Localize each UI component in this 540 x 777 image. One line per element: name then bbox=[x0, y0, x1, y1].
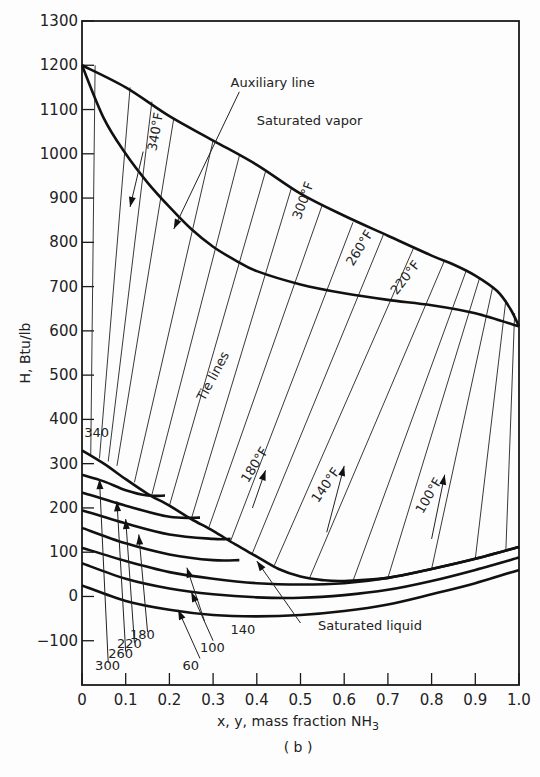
y-tick-label: 1200 bbox=[40, 56, 78, 74]
annotation-t220f: 220°F bbox=[387, 257, 423, 297]
annotation-l140: 140 bbox=[231, 622, 256, 637]
tie-line bbox=[91, 65, 95, 455]
x-tick-label: 0.6 bbox=[332, 691, 356, 709]
y-axis-title: H, Btu/lb bbox=[17, 322, 33, 383]
y-tick-label: 100 bbox=[49, 543, 78, 561]
enthalpy-concentration-chart: 00.10.20.30.40.50.60.70.80.91.0−10001002… bbox=[0, 0, 540, 777]
tie-line bbox=[108, 102, 152, 462]
annotation-t340f: 340°F bbox=[144, 111, 166, 152]
x-tick-label: 0.8 bbox=[420, 691, 444, 709]
annotation-liq: Saturated liquid bbox=[318, 618, 422, 633]
arrow-head bbox=[174, 219, 181, 230]
y-tick-label: 0 bbox=[68, 587, 78, 605]
y-tick-label: 800 bbox=[49, 233, 78, 251]
x-tick-label: 0.3 bbox=[201, 691, 225, 709]
annotation-l180: 180 bbox=[130, 627, 155, 642]
arrow-shaft bbox=[174, 92, 240, 229]
arrow-head bbox=[257, 561, 266, 571]
tie-line bbox=[274, 247, 414, 566]
annotation-vap: Saturated vapor bbox=[257, 113, 363, 128]
tie-line bbox=[99, 87, 130, 458]
x-tick-label: 0.2 bbox=[157, 691, 181, 709]
annotation-t140f: 140°F bbox=[308, 465, 343, 505]
arrow-head bbox=[136, 534, 143, 544]
x-tick-label: 0.5 bbox=[289, 691, 313, 709]
tie-line bbox=[252, 234, 383, 553]
annotation-l340: 340 bbox=[84, 425, 109, 440]
tie-line bbox=[309, 260, 444, 579]
tie-line bbox=[134, 141, 213, 483]
figure-caption: ( b ) bbox=[284, 739, 313, 755]
y-tick-label: 600 bbox=[49, 322, 78, 340]
tie-line bbox=[388, 278, 480, 578]
tie-line bbox=[432, 287, 493, 569]
x-tick-label: 0.1 bbox=[114, 691, 138, 709]
tie-line bbox=[231, 222, 353, 541]
y-tick-label: 1300 bbox=[40, 12, 78, 30]
y-tick-label: 900 bbox=[49, 189, 78, 207]
annotation-tie: Tie lines bbox=[193, 349, 232, 404]
y-tick-label: −100 bbox=[37, 632, 78, 650]
x-tick-label: 1.0 bbox=[507, 691, 531, 709]
tie-line bbox=[475, 300, 506, 559]
x-axis-title: x, y, mass fraction NH3 bbox=[217, 713, 379, 733]
tie-line bbox=[506, 313, 515, 550]
y-tick-label: 700 bbox=[49, 278, 78, 296]
annotation-l100: 100 bbox=[200, 640, 225, 655]
x-tick-label: 0.9 bbox=[463, 691, 487, 709]
tie-line bbox=[191, 187, 292, 519]
x-tick-label: 0.4 bbox=[245, 691, 269, 709]
tie-line bbox=[117, 118, 174, 465]
tie-line bbox=[353, 270, 467, 581]
tie-line bbox=[152, 156, 239, 495]
annotation-aux: Auxiliary line bbox=[231, 75, 315, 90]
curve-isotherm-140 bbox=[82, 547, 519, 585]
y-tick-label: 1100 bbox=[40, 101, 78, 119]
y-tick-label: 400 bbox=[49, 410, 78, 428]
arrow-head bbox=[129, 196, 136, 207]
x-tick-label: 0 bbox=[77, 691, 87, 709]
y-tick-label: 1000 bbox=[40, 145, 78, 163]
y-tick-label: 300 bbox=[49, 455, 78, 473]
x-tick-label: 0.7 bbox=[376, 691, 400, 709]
annotation-t260f: 260°F bbox=[343, 227, 376, 268]
annotation-l60: 60 bbox=[183, 658, 200, 673]
y-tick-label: 200 bbox=[49, 499, 78, 517]
arrow-head bbox=[259, 470, 266, 481]
y-tick-label: 500 bbox=[49, 366, 78, 384]
